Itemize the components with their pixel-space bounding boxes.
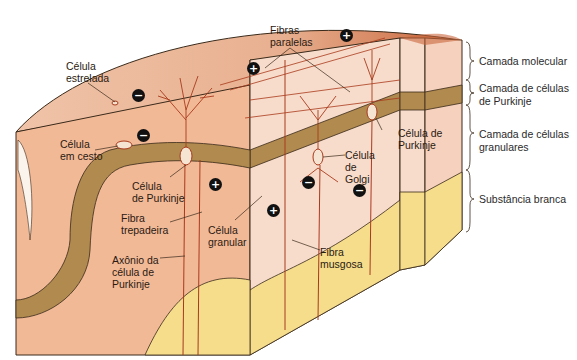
layer-braces xyxy=(466,42,474,232)
purkinje-soma-left xyxy=(180,147,192,165)
minus-sign-icon: − xyxy=(132,89,145,102)
white-matter-block xyxy=(400,192,425,270)
purkinje-soma-right xyxy=(367,104,377,120)
golgi-soma xyxy=(313,149,323,165)
label-celula-purkinje-right: Célula de Purkinje xyxy=(398,127,442,151)
label-camada-molecular: Camada molecular xyxy=(479,55,567,68)
label-celula-estrelada: Célula estrelada xyxy=(66,60,109,84)
label-fibra-trepadeira: Fibra trepadeira xyxy=(121,212,168,236)
label-fibras-paralelas: Fibras paralelas xyxy=(270,24,313,48)
label-fibra-musgosa: Fibra musgosa xyxy=(320,246,363,270)
label-celula-em-cesto: Célula em cesto xyxy=(60,138,103,162)
plus-sign-icon: + xyxy=(267,204,280,217)
plus-sign-icon: + xyxy=(209,178,222,191)
purkinje-band-block xyxy=(400,92,425,110)
plus-sign-icon: + xyxy=(340,29,353,42)
label-camada-granulares: Camada de células granulares xyxy=(479,128,569,154)
minus-sign-icon: − xyxy=(137,129,150,142)
minus-sign-icon: − xyxy=(302,176,315,189)
label-celula-granular: Célula granular xyxy=(208,224,247,248)
label-axonio: Axônio da célula de Purkinje xyxy=(112,254,159,290)
label-celula-purkinje-left: Célula de Purkinje xyxy=(132,180,185,204)
label-substancia-branca: Substância branca xyxy=(479,193,566,206)
basket-cell-soma xyxy=(116,141,132,149)
plus-sign-icon: + xyxy=(247,62,260,75)
label-camada-purkinje: Camada de células de Purkinje xyxy=(479,82,569,108)
minus-sign-icon: − xyxy=(353,184,366,197)
cerebellum-diagram xyxy=(0,0,577,360)
label-celula-golgi: Célula de Golgi xyxy=(345,149,375,185)
